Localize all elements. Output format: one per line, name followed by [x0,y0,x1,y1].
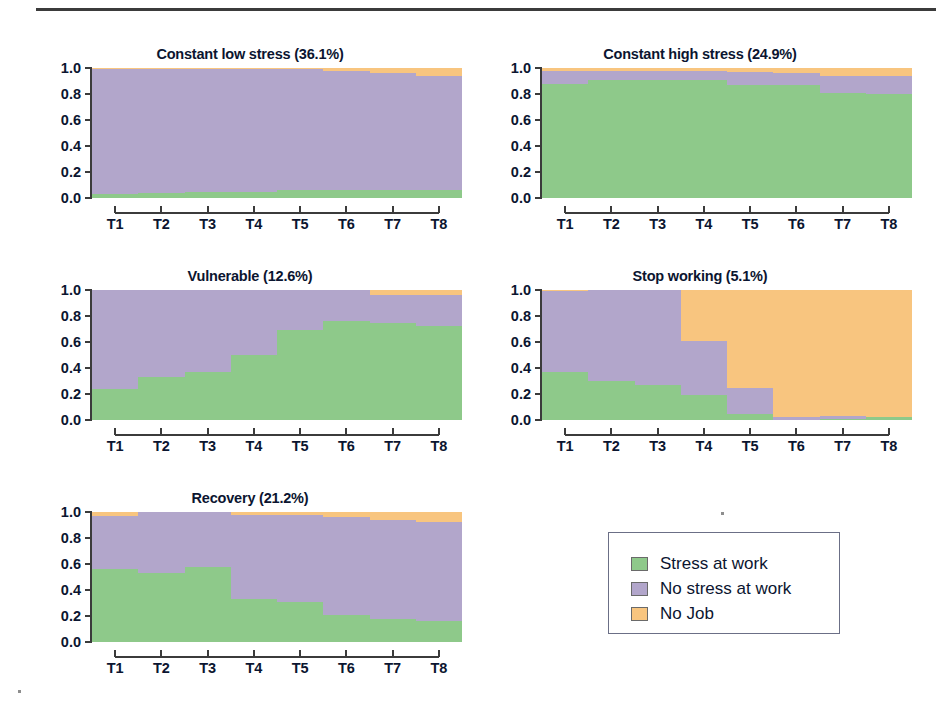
y-tick [85,171,92,173]
area-segment [323,70,370,190]
area-segment [370,190,417,198]
area-segment [323,290,370,321]
x-tick-label: T4 [245,660,262,676]
x-tick-label: T8 [430,216,447,232]
y-tick [85,119,92,121]
legend-swatch-icon [631,582,648,596]
x-tick [657,206,659,213]
area-segment [138,290,185,377]
x-tick-label: T4 [245,438,262,454]
y-tick-label: 0.0 [511,190,531,206]
legend-item: Stress at work [631,551,791,576]
x-tick [610,206,612,213]
area-segment [92,69,139,194]
x-tick-label: T1 [107,660,124,676]
x-tick-label: T2 [153,660,170,676]
area-segment [277,69,324,191]
area-segment [92,515,139,569]
area-segment [231,290,278,355]
legend-label: No Job [660,604,714,624]
legend-item: No Job [631,601,791,626]
area-segment [542,291,589,372]
x-tick [299,428,301,435]
area-segment [277,290,324,330]
area-segment [416,290,462,295]
y-tick-label: 0.2 [511,164,531,180]
x-tick-label: T3 [649,216,666,232]
panel-recovery: Recovery (21.2%)0.00.20.40.60.81.0T1T2T3… [38,490,462,662]
x-tick [438,206,440,213]
area-segment [681,290,728,341]
area-segment [277,190,324,198]
x-tick-label: T1 [107,438,124,454]
stray-mark-2 [18,690,21,693]
area-segment [416,295,462,327]
area-segment [727,413,774,420]
panel-title: Stop working (5.1%) [488,268,912,284]
y-tick [535,341,542,343]
area-segment [370,512,417,520]
area-segment [323,68,370,71]
area-segment [588,70,635,80]
y-tick-label: 0.0 [61,190,81,206]
y-tick-label: 0.0 [61,412,81,428]
y-tick [535,419,542,421]
stray-mark [721,512,724,515]
area-segment [416,68,462,76]
area-segment [416,75,462,190]
x-axis-line [115,212,439,214]
y-tick [85,393,92,395]
area-segment [588,290,635,381]
x-tick-label: T5 [742,438,759,454]
y-tick-label: 0.4 [511,138,531,154]
area-segment [370,290,417,295]
x-axis: T1T2T3T4T5T6T7T8 [542,428,912,454]
area-segment [681,395,728,420]
y-tick [85,419,92,421]
panel-vulnerable: Vulnerable (12.6%)0.00.20.40.60.81.0T1T2… [38,268,462,440]
area-segment [277,68,324,69]
x-tick [392,206,394,213]
x-tick-label: T7 [384,216,401,232]
x-tick [888,428,890,435]
area-segment [416,190,462,198]
area-segment [370,618,417,642]
x-tick [842,428,844,435]
area-segment [773,68,820,73]
area-segment [231,68,278,69]
area-segment [185,191,232,198]
panel-title: Constant low stress (36.1%) [38,46,462,62]
area-segment [727,387,774,414]
area-segment [866,93,912,198]
x-tick-label: T5 [292,438,309,454]
plot-area: 0.00.20.40.60.81.0T1T2T3T4T5T6T7T8 [38,512,462,642]
y-tick [85,641,92,643]
area-segment [820,75,867,93]
x-tick [345,428,347,435]
x-tick-label: T2 [603,438,620,454]
panel-stop-working: Stop working (5.1%)0.00.20.40.60.81.0T1T… [488,268,912,440]
y-tick [85,341,92,343]
x-tick-label: T8 [430,660,447,676]
area-segment [185,69,232,192]
x-axis: T1T2T3T4T5T6T7T8 [92,206,462,232]
y-tick [85,67,92,69]
x-tick [114,650,116,657]
area-segment [773,84,820,198]
area-segment [138,377,185,421]
x-tick-label: T8 [430,438,447,454]
area-segment [185,290,232,372]
x-tick-label: T1 [107,216,124,232]
x-tick [795,428,797,435]
x-tick [392,428,394,435]
y-tick [535,67,542,69]
area-segment [542,68,589,71]
x-tick-label: T6 [338,216,355,232]
y-tick-label: 0.0 [61,634,81,650]
area-segment [138,573,185,643]
plot-area: 0.00.20.40.60.81.0T1T2T3T4T5T6T7T8 [488,290,912,420]
area-segment [231,514,278,599]
figure-root: Constant low stress (36.1%)0.00.20.40.60… [0,0,950,709]
stacked-area-canvas [542,290,912,420]
x-tick-label: T5 [292,660,309,676]
